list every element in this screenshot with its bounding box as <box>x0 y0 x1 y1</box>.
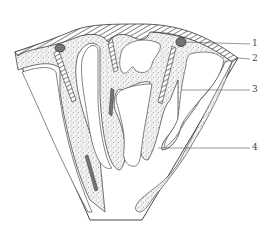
callout-label-1: 1 <box>252 39 258 48</box>
leader-line-2 <box>238 58 250 59</box>
dark-nodule-left <box>55 44 65 52</box>
callout-label-3: 3 <box>252 85 258 94</box>
callout-label-4: 4 <box>252 143 258 152</box>
callout-label-2: 2 <box>252 54 258 63</box>
fan-cross-section-diagram <box>0 0 273 236</box>
